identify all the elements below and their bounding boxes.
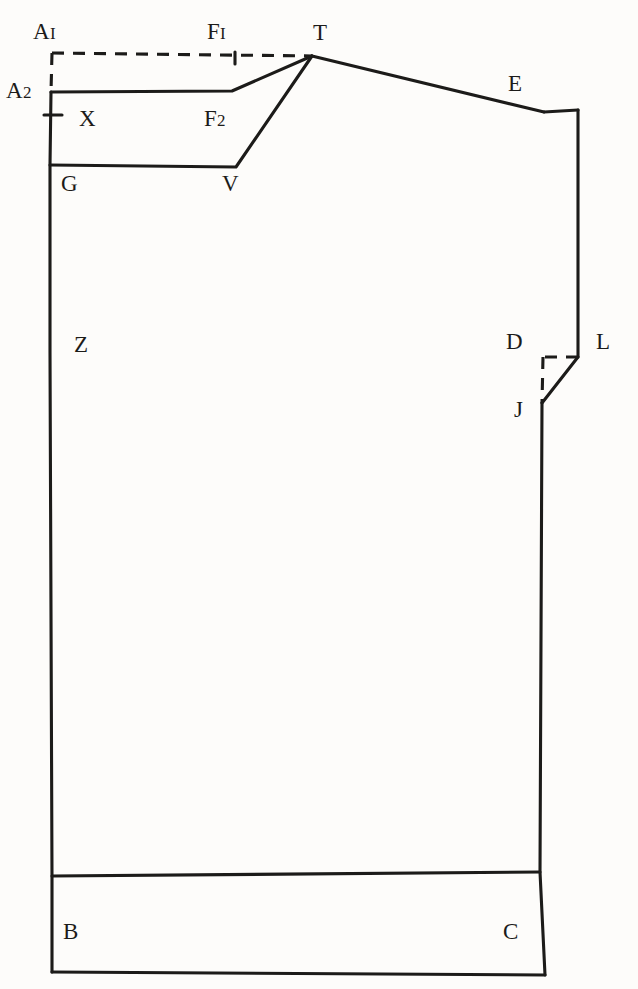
construction-a1-to-a2-path (51, 53, 52, 92)
pattern-draft-figure: AIFITA2EXF2GVZDLJBC (0, 0, 638, 989)
point-label-z: Z (74, 333, 88, 356)
point-label-f2: F2 (204, 107, 226, 130)
point-label-base: A (33, 19, 50, 44)
point-label-g: G (61, 172, 78, 195)
point-label-t: T (313, 21, 327, 44)
construction-d-to-j-path (542, 357, 543, 403)
left-center-front-edge-path (50, 92, 52, 972)
point-label-e: E (508, 72, 522, 95)
point-label-base: F (204, 106, 217, 131)
point-label-a2: A2 (6, 79, 31, 102)
point-label-j: J (514, 398, 523, 421)
hem-band-top-path (52, 872, 540, 876)
point-label-b: B (63, 920, 79, 943)
construction-a1-to-t-path (52, 53, 312, 56)
point-label-subscript: I (50, 24, 56, 43)
neckline-a2-to-f2-path (51, 56, 312, 92)
side-seam-l-to-j-path (542, 357, 578, 403)
point-label-l: L (596, 330, 610, 353)
point-label-a1: AI (33, 20, 56, 43)
point-label-x: X (79, 107, 96, 130)
point-label-f1: FI (207, 20, 226, 43)
point-label-base: F (207, 19, 220, 44)
shoulder-tip-e-square-path (544, 110, 578, 112)
point-label-c: C (503, 920, 519, 943)
point-label-d: D (506, 330, 523, 353)
solid-pattern-lines (50, 56, 578, 975)
side-seam-j-to-hem-path (540, 403, 545, 975)
point-label-base: A (6, 78, 23, 103)
pattern-drawing-canvas (0, 0, 638, 989)
dashed-construction-lines (51, 53, 578, 403)
point-label-v: V (222, 172, 239, 195)
hem-band-bottom-path (52, 972, 545, 975)
point-label-subscript: I (220, 24, 226, 43)
point-label-subscript: 2 (217, 111, 226, 130)
point-label-subscript: 2 (23, 83, 32, 102)
